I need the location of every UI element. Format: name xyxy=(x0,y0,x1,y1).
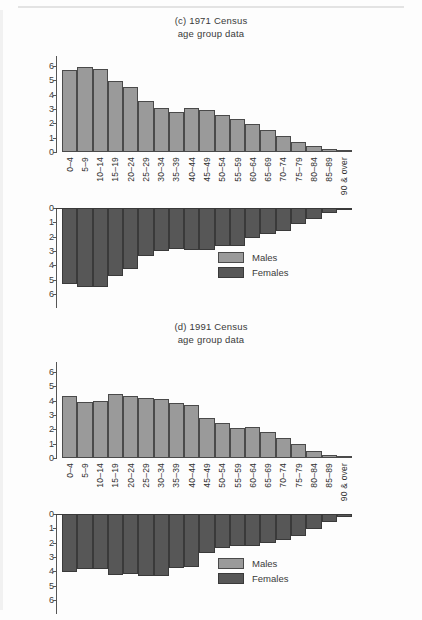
bar xyxy=(245,514,260,546)
y-axis-tick-label: 0 xyxy=(36,148,54,157)
category-label: 70–74 xyxy=(276,461,291,513)
category-label: 60–64 xyxy=(245,155,260,207)
legend-swatch-males-icon xyxy=(218,252,244,263)
y-axis-tick-label: 5 xyxy=(36,382,54,391)
chart-1971-females-bars xyxy=(62,208,352,294)
bar xyxy=(276,514,291,540)
bar xyxy=(306,208,321,219)
category-label: 30–34 xyxy=(154,155,169,207)
chart-1991-females-yaxis: 0123456 xyxy=(0,514,62,600)
category-label: 90 & over xyxy=(337,461,352,513)
category-label: 40–44 xyxy=(184,155,199,207)
bar xyxy=(215,514,230,548)
page-top-rule xyxy=(18,6,404,8)
category-label: 55–59 xyxy=(230,461,245,513)
bar xyxy=(77,514,92,569)
chart-1971-females-yaxis: 0123456 xyxy=(0,208,62,294)
chart-1991-males-bars xyxy=(62,372,352,458)
category-label: 30–34 xyxy=(154,461,169,513)
y-axis-tickmark xyxy=(53,600,57,601)
y-axis-tick-label: 4 xyxy=(36,90,54,99)
bar xyxy=(291,444,306,458)
bar xyxy=(93,208,108,287)
y-axis-tick-label: 5 xyxy=(36,275,54,284)
y-axis-tick-label: 2 xyxy=(36,538,54,547)
y-axis-tick-label: 6 xyxy=(36,368,54,377)
y-axis-tick-label: 0 xyxy=(36,454,54,463)
bar xyxy=(306,451,321,458)
legend-swatch-females-icon xyxy=(218,573,244,584)
y-axis-tick-label: 3 xyxy=(36,553,54,562)
category-label: 60–64 xyxy=(245,461,260,513)
category-label: 70–74 xyxy=(276,155,291,207)
y-axis-tickmark xyxy=(53,294,57,295)
bar xyxy=(199,514,214,553)
bar xyxy=(306,514,321,529)
y-axis-tickmark xyxy=(53,557,57,558)
category-label: 0–4 xyxy=(62,461,77,513)
chart-1991-females-bars xyxy=(62,514,352,600)
bar xyxy=(230,119,245,152)
y-axis-tickmark xyxy=(53,415,57,416)
category-label: 5–9 xyxy=(77,461,92,513)
category-label: 55–59 xyxy=(230,155,245,207)
bar xyxy=(322,514,337,522)
y-axis-tick-label: 2 xyxy=(36,232,54,241)
y-axis-tickmark xyxy=(53,586,57,587)
category-label: 5–9 xyxy=(77,155,92,207)
category-label: 10–14 xyxy=(93,461,108,513)
y-axis-tickmark xyxy=(53,528,57,529)
y-axis-tickmark xyxy=(53,138,57,139)
bar xyxy=(291,514,306,536)
chart-1971-title-line1: (c) 1971 Census xyxy=(175,15,248,26)
bar xyxy=(62,396,77,458)
bar xyxy=(276,208,291,231)
category-label: 80–84 xyxy=(306,461,321,513)
bar xyxy=(123,514,138,574)
y-axis-tickmark xyxy=(53,571,57,572)
category-label: 75–79 xyxy=(291,461,306,513)
y-axis-tickmark xyxy=(53,280,57,281)
bar xyxy=(230,208,245,246)
bar xyxy=(322,455,337,458)
legend-entry-males: Males xyxy=(218,252,288,263)
bar xyxy=(260,432,275,458)
bar xyxy=(154,514,169,576)
chart-1991-males-yaxis: 0123456 xyxy=(0,372,62,458)
y-axis-tickmark xyxy=(53,66,57,67)
category-label: 80–84 xyxy=(306,155,321,207)
y-axis-tickmark xyxy=(53,543,57,544)
bar xyxy=(291,208,306,224)
bar xyxy=(123,396,138,458)
category-label: 65–69 xyxy=(260,155,275,207)
bar xyxy=(138,208,153,256)
bar xyxy=(276,136,291,152)
chart-1971-males-yaxis: 0123456 xyxy=(0,66,62,152)
y-axis-tickmark xyxy=(53,265,57,266)
bar xyxy=(138,398,153,458)
bar xyxy=(108,208,123,276)
category-label: 15–19 xyxy=(108,155,123,207)
category-label: 0–4 xyxy=(62,155,77,207)
bar xyxy=(215,423,230,458)
chart-1991-title-line2: age group data xyxy=(0,333,422,346)
y-axis-tick-label: 1 xyxy=(36,439,54,448)
bar xyxy=(245,208,260,238)
category-label: 75–79 xyxy=(291,155,306,207)
y-axis-tick-label: 1 xyxy=(36,133,54,142)
y-axis-tickmark xyxy=(53,222,57,223)
bar xyxy=(184,208,199,250)
y-axis-tickmark xyxy=(53,401,57,402)
legend-entry-females: Females xyxy=(218,267,288,278)
bar xyxy=(77,67,92,152)
bar xyxy=(260,130,275,152)
chart-1971-males-bars xyxy=(62,66,352,152)
bar xyxy=(93,514,108,569)
bar xyxy=(291,142,306,152)
y-axis-tick-label: 3 xyxy=(36,411,54,420)
y-axis-tickmark xyxy=(53,372,57,373)
legend-entry-females: Females xyxy=(218,573,288,584)
chart-1971-legend: Males Females xyxy=(218,252,288,282)
y-axis-tickmark xyxy=(53,80,57,81)
bar xyxy=(62,208,77,284)
